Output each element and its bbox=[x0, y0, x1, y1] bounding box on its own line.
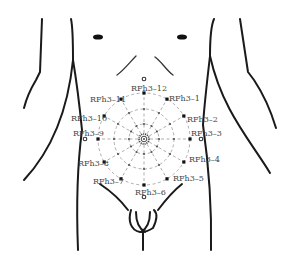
rib-arch-left bbox=[117, 56, 136, 75]
minor-point-icon bbox=[128, 112, 130, 114]
minor-point-icon bbox=[143, 168, 145, 170]
label-rfh3-1: RFh3–1 bbox=[169, 94, 200, 103]
minor-point-icon bbox=[156, 130, 158, 132]
diagram-canvas: RFh3–12 RFh3–1 RFh3–2 RFh3–3 RFh3–4 RFh3… bbox=[0, 0, 296, 268]
right-nipple-icon bbox=[177, 34, 187, 39]
minor-point-icon bbox=[158, 138, 160, 140]
label-rfh3-4: RFh3–4 bbox=[189, 155, 220, 164]
label-rfh3-3: RFh3–3 bbox=[191, 129, 222, 138]
acupoint-rfh3-5-icon bbox=[165, 177, 168, 180]
grid-spoke bbox=[147, 99, 167, 134]
label-rfh3-6: RFh3–6 bbox=[135, 188, 166, 197]
minor-point-icon bbox=[150, 151, 152, 153]
label-rfh3-7: RFh3–7 bbox=[93, 177, 124, 186]
left-arm-outline bbox=[24, 19, 42, 108]
minor-point-icon bbox=[158, 112, 160, 114]
grid-spoke bbox=[147, 144, 167, 179]
minor-point-icon bbox=[113, 138, 115, 140]
label-rfh3-10: RFh3–10 bbox=[71, 114, 107, 123]
navel-rosette-icon bbox=[139, 134, 149, 144]
label-rfh3-2: RFh3–2 bbox=[187, 115, 218, 124]
minor-point-icon bbox=[135, 125, 137, 127]
minor-point-icon bbox=[130, 130, 132, 132]
minor-point-icon bbox=[130, 145, 132, 147]
minor-point-icon bbox=[117, 123, 119, 125]
minor-point-icon bbox=[156, 145, 158, 147]
minor-point-icon bbox=[128, 164, 130, 166]
minor-point-icon bbox=[158, 164, 160, 166]
minor-point-icon bbox=[117, 153, 119, 155]
rib-arch-right bbox=[155, 57, 173, 75]
label-rfh3-12: RFh3–12 bbox=[131, 84, 167, 93]
minor-point-icon bbox=[169, 153, 171, 155]
minor-point-icon bbox=[135, 151, 137, 153]
genitals-outline bbox=[130, 210, 157, 232]
minor-point-icon bbox=[143, 123, 145, 125]
minor-point-icon bbox=[143, 108, 145, 110]
label-rfh3-9: RFh3–9 bbox=[73, 129, 104, 138]
landmark-top-circle-icon bbox=[142, 77, 146, 81]
right-arm-outline bbox=[240, 19, 276, 128]
left-flank-outline bbox=[24, 60, 73, 180]
grid-spoke bbox=[121, 99, 141, 134]
label-rfh3-5: RFh3–5 bbox=[173, 174, 204, 183]
minor-point-icon bbox=[169, 123, 171, 125]
left-groin-outline bbox=[100, 184, 128, 210]
minor-point-icon bbox=[128, 138, 130, 140]
grid-spoke bbox=[149, 142, 184, 162]
abdominal-acupoint-diagram: RFh3–12 RFh3–1 RFh3–2 RFh3–3 RFh3–4 RFh3… bbox=[0, 0, 296, 268]
left-nipple-icon bbox=[93, 34, 103, 39]
minor-point-icon bbox=[143, 153, 145, 155]
minor-point-icon bbox=[173, 138, 175, 140]
acupoint-rfh3-2-icon bbox=[182, 114, 185, 117]
label-rfh3-8: RFh3–8 bbox=[78, 159, 109, 168]
minor-point-icon bbox=[150, 125, 152, 127]
acupoint-rfh3-6-icon bbox=[142, 183, 145, 186]
acupoint-rfh3-4-icon bbox=[182, 160, 185, 163]
label-rfh3-11: RFh3–11 bbox=[90, 95, 126, 104]
